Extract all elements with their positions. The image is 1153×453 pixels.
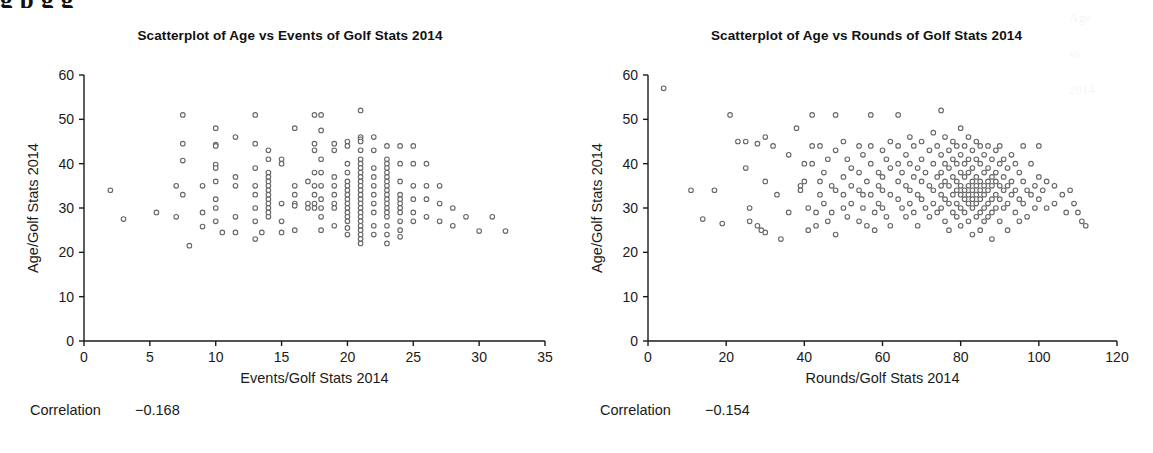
svg-text:20: 20 (718, 349, 734, 365)
scatterplot-age-vs-events: 010203040506005101520253035Events/Golf S… (0, 55, 580, 395)
svg-text:0: 0 (66, 333, 74, 349)
chart-panel-age-vs-rounds: Scatterplot of Age vs Rounds of Golf Sta… (580, 0, 1153, 453)
svg-text:30: 30 (471, 349, 487, 365)
svg-text:80: 80 (953, 349, 969, 365)
scatter-svg-right: 0102030405060020406080100120Rounds/Golf … (580, 55, 1153, 395)
svg-text:40: 40 (797, 349, 813, 365)
svg-text:Age/Golf Stats 2014: Age/Golf Stats 2014 (25, 143, 41, 273)
chart-panel-age-vs-events: Scatterplot of Age vs Events of Golf Sta… (0, 0, 580, 453)
svg-text:0: 0 (644, 349, 652, 365)
svg-text:15: 15 (274, 349, 290, 365)
correlation-value: −0.168 (135, 402, 180, 418)
svg-text:10: 10 (622, 289, 638, 305)
svg-text:100: 100 (1027, 349, 1051, 365)
chart-title-right: Scatterplot of Age vs Rounds of Golf Sta… (580, 28, 1153, 43)
svg-text:20: 20 (58, 244, 74, 260)
svg-text:10: 10 (58, 289, 74, 305)
svg-text:40: 40 (58, 156, 74, 172)
svg-text:20: 20 (622, 244, 638, 260)
svg-text:0: 0 (80, 349, 88, 365)
svg-text:Events/Golf Stats 2014: Events/Golf Stats 2014 (240, 370, 388, 386)
svg-text:50: 50 (622, 111, 638, 127)
svg-text:60: 60 (58, 67, 74, 83)
svg-text:30: 30 (58, 200, 74, 216)
svg-text:60: 60 (622, 67, 638, 83)
svg-text:30: 30 (622, 200, 638, 216)
svg-text:60: 60 (875, 349, 891, 365)
correlation-readout-left: Correlation −0.168 (30, 402, 180, 418)
svg-text:10: 10 (208, 349, 224, 365)
correlation-readout-right: Correlation −0.154 (600, 402, 750, 418)
correlation-value: −0.154 (705, 402, 750, 418)
svg-text:40: 40 (622, 156, 638, 172)
svg-text:35: 35 (537, 349, 553, 365)
svg-text:5: 5 (146, 349, 154, 365)
correlation-label: Correlation (600, 402, 671, 418)
scatter-svg-left: 010203040506005101520253035Events/Golf S… (0, 55, 580, 395)
svg-text:20: 20 (340, 349, 356, 365)
figure-page: g p g g Age vs 2014 Scatterplot of Age v… (0, 0, 1153, 453)
svg-text:0: 0 (630, 333, 638, 349)
svg-text:120: 120 (1105, 349, 1129, 365)
svg-text:25: 25 (405, 349, 421, 365)
svg-text:Rounds/Golf Stats 2014: Rounds/Golf Stats 2014 (806, 370, 960, 386)
svg-text:50: 50 (58, 111, 74, 127)
correlation-label: Correlation (30, 402, 101, 418)
svg-text:Age/Golf Stats 2014: Age/Golf Stats 2014 (589, 143, 605, 273)
chart-title-left: Scatterplot of Age vs Events of Golf Sta… (0, 28, 580, 43)
scatterplot-age-vs-rounds: 0102030405060020406080100120Rounds/Golf … (580, 55, 1153, 395)
